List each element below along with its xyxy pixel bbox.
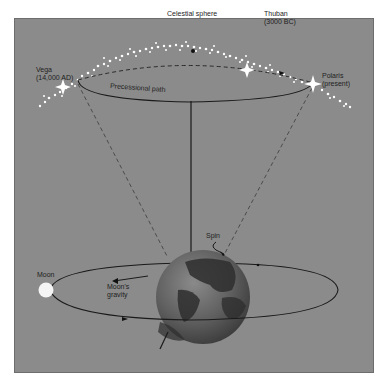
polaris-label: Polaris: [322, 72, 343, 80]
celestial-pole-marker: [191, 49, 195, 53]
vega-label: Vega: [36, 66, 52, 74]
celestial-sphere-label: Celestial sphere: [167, 10, 217, 18]
polaris-star-icon: [304, 75, 322, 93]
moons-gravity-arrow: [114, 276, 148, 281]
thuban-date-label: (3000 BC): [264, 18, 296, 26]
orbit-arrow-icon: [122, 317, 128, 321]
thuban-star-icon: [239, 62, 255, 78]
vega-date-label: (14,000 AD): [36, 74, 73, 82]
precession-circle-back: [78, 65, 310, 82]
polaris-date-label: (present): [322, 80, 350, 88]
precession-diagram: [0, 0, 384, 387]
moon: [39, 283, 54, 298]
moon-label: Moon: [37, 271, 55, 279]
cone-line-right: [224, 88, 312, 255]
spin-label: Spin: [206, 232, 220, 240]
thuban-label: Thuban: [264, 10, 288, 18]
cone-line-left: [78, 84, 168, 258]
orbit-marker: [257, 264, 260, 267]
moons-gravity-label-1: Moon's: [107, 283, 129, 291]
moons-gravity-label-2: gravity: [107, 291, 128, 299]
earth: [156, 250, 250, 344]
